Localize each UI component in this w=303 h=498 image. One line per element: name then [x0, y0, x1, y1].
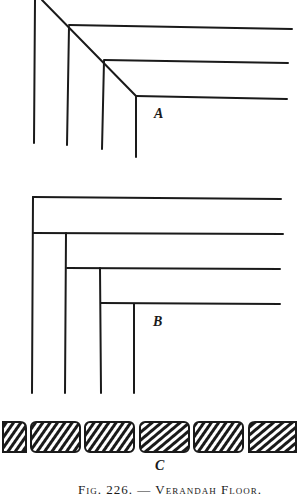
figure-drawing — [0, 0, 303, 498]
board-section-3 — [85, 422, 134, 452]
panel-a-drawing — [34, 0, 292, 157]
board-section-6 — [249, 422, 296, 452]
panel-b-drawing — [32, 197, 283, 393]
panel-a-label: A — [154, 106, 163, 122]
board-section-1 — [3, 422, 26, 452]
panel-c-drawing — [3, 422, 296, 452]
board-section-2 — [31, 422, 80, 452]
board-section-4 — [140, 422, 189, 452]
board-section-5 — [194, 422, 243, 452]
figure-caption: Fig. 226. — Verandah Floor. — [40, 482, 300, 498]
panel-b-label: B — [153, 314, 162, 330]
panel-c-label: C — [155, 458, 164, 474]
